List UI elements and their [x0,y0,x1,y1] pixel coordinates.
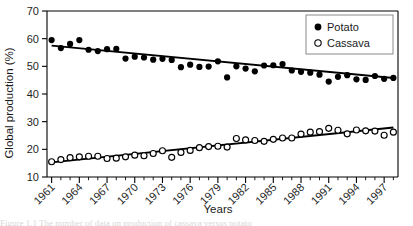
data-point-potato [122,55,128,61]
data-point-potato [76,37,82,43]
data-point-potato [242,65,248,71]
y-tick-label: 40 [27,88,39,100]
data-point-cassava [381,132,387,138]
data-point-potato [270,62,276,68]
y-tick-label: 20 [27,143,39,155]
data-point-potato [169,57,175,63]
data-point-potato [381,76,387,82]
data-point-cassava [243,137,249,143]
data-point-cassava [187,147,193,153]
data-point-cassava [58,157,64,163]
data-point-potato [58,45,64,51]
data-point-potato [141,54,147,60]
data-point-potato [316,72,322,78]
data-point-cassava [49,159,55,165]
chart-figure: Global production (%) Years 102030405060… [0,0,413,226]
data-point-cassava [113,155,119,161]
data-point-potato [178,64,184,70]
data-point-potato [335,74,341,80]
data-point-cassava [307,129,313,135]
data-point-cassava [159,148,165,154]
data-point-potato [298,69,304,75]
y-tick-label: 10 [27,171,39,183]
data-point-potato [372,73,378,79]
data-point-potato [326,78,332,84]
data-point-potato [344,72,350,78]
data-point-cassava [196,145,202,151]
data-point-potato [113,46,119,52]
data-point-potato [187,62,193,68]
chart-legend[interactable]: Potato Cassava [306,15,393,54]
data-point-cassava [363,128,369,134]
y-tick-label: 60 [27,33,39,45]
data-point-cassava [169,154,175,160]
data-point-cassava [280,135,286,141]
y-tick-label: 30 [27,116,39,128]
data-point-potato [104,46,110,52]
data-point-cassava [206,144,212,150]
data-point-potato [353,76,359,82]
data-point-cassava [353,127,359,133]
data-point-potato [95,48,101,54]
data-point-cassava [178,149,184,155]
data-point-potato [224,74,230,80]
data-point-potato [67,41,73,47]
y-tick-label: 70 [27,5,39,17]
data-point-potato [289,67,295,73]
data-point-cassava [390,129,396,135]
data-point-cassava [123,154,129,160]
data-point-potato [132,54,138,60]
data-point-cassava [289,135,295,141]
data-point-potato [252,68,258,74]
data-point-potato [233,63,239,69]
data-point-cassava [76,154,82,160]
data-point-cassava [270,136,276,142]
data-point-potato [206,64,212,70]
data-point-potato [150,57,156,63]
legend-label-potato: Potato [327,21,359,33]
data-point-cassava [372,128,378,134]
legend-marker-potato-icon [315,24,322,31]
data-point-potato [363,77,369,83]
data-point-cassava [233,136,239,142]
data-point-cassava [316,129,322,135]
figure-caption: Figure 1.1 The number of data on product… [0,218,413,226]
data-point-potato [49,37,55,43]
data-point-cassava [132,152,138,158]
data-point-cassava [215,143,221,149]
legend-label-cassava: Cassava [327,37,371,49]
data-point-cassava [67,155,73,161]
y-tick-label: 50 [27,60,39,72]
legend-marker-cassava-icon [315,40,321,46]
data-point-cassava [224,144,230,150]
data-point-cassava [252,137,258,143]
data-point-cassava [261,138,267,144]
data-point-potato [279,61,285,67]
data-point-cassava [141,153,147,159]
data-point-cassava [326,125,332,131]
data-point-cassava [104,155,110,161]
data-point-potato [261,62,267,68]
data-point-potato [215,58,221,64]
data-point-cassava [86,153,92,159]
data-point-potato [390,75,396,81]
data-point-cassava [150,150,156,156]
production-trend-chart: Global production (%) Years 102030405060… [0,0,413,226]
data-point-cassava [298,131,304,137]
y-axis-title: Global production (%) [3,47,15,158]
data-point-cassava [344,131,350,137]
data-point-potato [159,56,165,62]
data-point-potato [85,47,91,53]
data-point-cassava [95,153,101,159]
data-point-potato [307,70,313,76]
data-point-potato [196,64,202,70]
data-point-cassava [335,127,341,133]
